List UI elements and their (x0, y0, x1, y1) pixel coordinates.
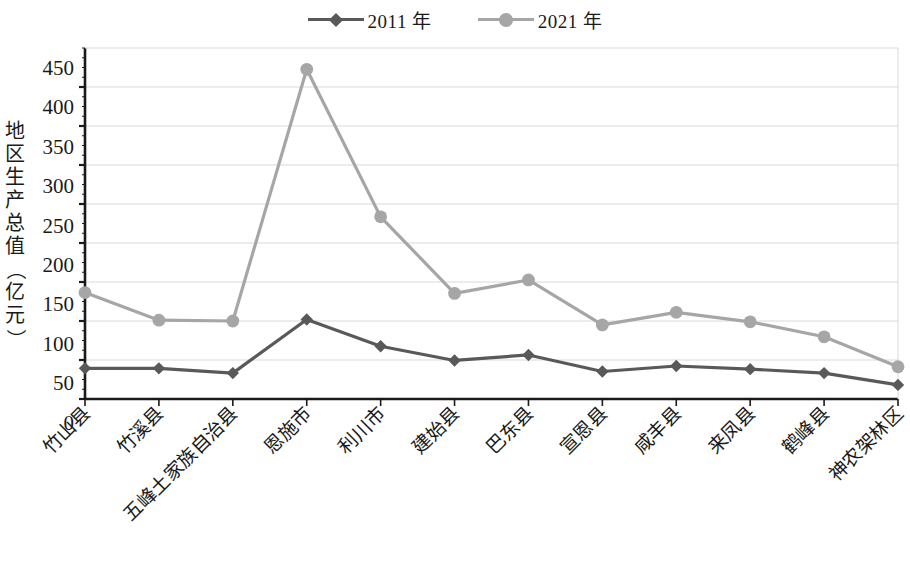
y-tick-labels: 450400350300250200150100500 (43, 56, 75, 435)
x-tick-label: 咸丰县 (630, 403, 685, 458)
data-point[interactable] (153, 362, 165, 374)
chart-container: 2011 年 2021 年 地区生产总值（亿元） 450400350300250… (0, 0, 910, 572)
x-tick-label: 来凤县 (704, 403, 759, 458)
plot-area: 450400350300250200150100500 竹山县竹溪县五峰土家族自… (0, 0, 910, 572)
y-tick-label: 250 (43, 214, 75, 238)
data-point[interactable] (448, 287, 461, 300)
data-point[interactable] (744, 363, 756, 375)
data-point[interactable] (153, 314, 166, 327)
data-point[interactable] (448, 354, 460, 366)
data-point[interactable] (670, 360, 682, 372)
series-2011 (79, 313, 904, 391)
data-point[interactable] (744, 315, 757, 328)
data-point[interactable] (596, 319, 609, 332)
data-point[interactable] (522, 274, 535, 287)
y-tick-label: 200 (43, 253, 75, 277)
data-point[interactable] (226, 315, 239, 328)
data-point[interactable] (596, 365, 608, 377)
series-line (85, 69, 898, 366)
x-tick-label: 巴东县 (482, 403, 537, 458)
data-point[interactable] (522, 349, 534, 361)
data-point[interactable] (818, 367, 830, 379)
data-point[interactable] (300, 63, 313, 76)
x-tick-label: 恩施市 (260, 403, 315, 458)
gridlines (85, 87, 898, 399)
y-tick-label: 400 (43, 95, 75, 119)
x-tick-label: 鹤峰县 (778, 403, 833, 458)
series-lines (79, 63, 905, 391)
y-tick-label: 300 (43, 174, 75, 198)
y-tick-label: 50 (53, 371, 74, 395)
x-tick-label: 竹溪县 (113, 403, 168, 458)
y-tick-label: 100 (43, 332, 75, 356)
data-point[interactable] (892, 379, 904, 391)
data-point[interactable] (892, 360, 905, 373)
data-point[interactable] (374, 210, 387, 223)
x-tick-label: 宣恩县 (556, 403, 611, 458)
y-tick-label: 150 (43, 292, 75, 316)
x-tick-label: 神农架林区 (825, 403, 907, 485)
x-tick-label: 建始县 (408, 403, 463, 458)
data-point[interactable] (670, 306, 683, 319)
x-tick-labels: 竹山县竹溪县五峰土家族自治县恩施市利川市建始县巴东县宣恩县咸丰县来凤县鹤峰县神农… (39, 403, 907, 525)
plot-border (85, 48, 898, 399)
data-point[interactable] (79, 362, 91, 374)
y-tick-label: 450 (43, 56, 75, 80)
x-tick-label: 利川市 (334, 403, 389, 458)
data-point[interactable] (374, 340, 386, 352)
series-line (85, 319, 898, 384)
data-point[interactable] (818, 330, 831, 343)
data-point[interactable] (79, 286, 92, 299)
y-tick-label: 350 (43, 135, 75, 159)
series-2021 (79, 63, 905, 373)
